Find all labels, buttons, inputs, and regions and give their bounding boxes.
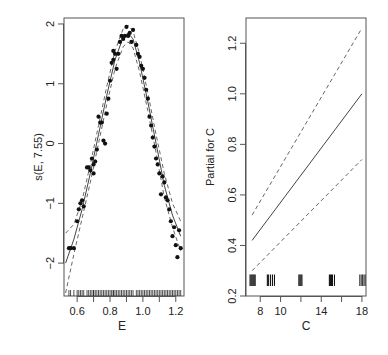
y-tick-label: 0.2	[226, 288, 238, 303]
right-y-label: Partial for C	[204, 128, 216, 186]
y-tick-label: −2	[44, 257, 56, 270]
data-point	[177, 228, 181, 232]
left-y-label: s(E, 7.55)	[32, 133, 44, 181]
data-point	[72, 246, 76, 250]
right-panel: 0.20.40.60.81.01.2 8101418 C Partial for…	[204, 18, 368, 333]
left-x-label: E	[118, 319, 126, 333]
data-point	[96, 115, 100, 119]
y-tick-label: 2	[44, 21, 56, 27]
data-point	[124, 25, 128, 29]
data-point	[100, 121, 104, 125]
data-point	[159, 192, 163, 196]
x-tick-label: 1.2	[168, 305, 183, 317]
data-point	[115, 67, 119, 71]
data-point	[157, 171, 161, 175]
data-point	[174, 243, 178, 247]
x-tick-label: 18	[356, 305, 368, 317]
data-point	[149, 124, 153, 128]
data-point	[147, 115, 151, 119]
right-x-label: C	[302, 319, 311, 333]
data-point	[129, 40, 133, 44]
data-point	[128, 31, 132, 35]
data-point	[170, 234, 174, 238]
right-rug	[250, 275, 365, 286]
data-point	[77, 207, 81, 211]
y-tick-label: 1	[44, 81, 56, 87]
data-point	[141, 67, 145, 71]
y-tick-label: −1	[44, 197, 56, 210]
confidence-band-line	[252, 160, 362, 271]
data-point	[105, 112, 109, 116]
data-point	[93, 159, 97, 163]
data-point	[138, 55, 142, 59]
left-y-axis: −2−1012	[44, 21, 64, 269]
data-point	[162, 180, 166, 184]
x-tick-label: 10	[274, 305, 286, 317]
x-tick-label: 14	[315, 305, 327, 317]
data-point	[167, 207, 171, 211]
data-point	[179, 246, 183, 250]
x-tick-label: 0.8	[102, 305, 117, 317]
right-plot-frame	[246, 18, 366, 296]
y-tick-label: 0	[44, 140, 56, 146]
data-point	[103, 141, 107, 145]
data-point	[95, 147, 99, 151]
y-tick-label: 0.8	[226, 137, 238, 152]
data-point	[75, 219, 79, 223]
right-y-axis: 0.20.40.60.81.01.2	[226, 36, 246, 304]
gam-partial-plots: −2−1012 0.60.81.01.2 E s(E, 7.55) 0.20.4…	[0, 0, 388, 355]
data-point	[118, 40, 122, 44]
data-point	[154, 156, 158, 160]
data-point	[91, 171, 95, 175]
y-tick-label: 0.6	[226, 187, 238, 202]
left-panel: −2−1012 0.60.81.01.2 E s(E, 7.55)	[32, 18, 184, 333]
y-tick-label: 1.2	[226, 36, 238, 51]
fit-line	[252, 94, 362, 241]
data-point	[175, 255, 179, 259]
data-point	[88, 168, 92, 172]
x-tick-label: 1.0	[135, 305, 150, 317]
data-point	[106, 97, 110, 101]
right-x-axis: 8101418	[257, 296, 368, 317]
data-point	[144, 88, 148, 92]
x-tick-label: 8	[257, 305, 263, 317]
data-point	[151, 135, 155, 139]
left-rug	[69, 290, 181, 296]
y-tick-label: 1.0	[226, 86, 238, 101]
confidence-band-line	[252, 28, 362, 215]
data-point	[142, 76, 146, 80]
data-point	[172, 225, 176, 229]
data-point	[82, 204, 86, 208]
left-x-axis: 0.60.81.01.2	[70, 296, 184, 317]
data-point	[161, 174, 165, 178]
y-tick-label: 0.4	[226, 238, 238, 253]
data-point	[131, 28, 135, 32]
x-tick-label: 0.6	[70, 305, 85, 317]
data-point	[116, 52, 120, 56]
data-point	[152, 144, 156, 148]
data-point	[169, 219, 173, 223]
data-point	[108, 79, 112, 83]
data-point	[111, 58, 115, 62]
fit-line	[66, 33, 181, 263]
right-series	[252, 28, 362, 271]
data-point	[156, 162, 160, 166]
left-series	[66, 25, 183, 293]
data-point	[80, 198, 84, 202]
left-plot-frame	[64, 18, 184, 296]
data-point	[90, 156, 94, 160]
data-point	[146, 97, 150, 101]
data-point	[165, 198, 169, 202]
data-point	[134, 43, 138, 47]
